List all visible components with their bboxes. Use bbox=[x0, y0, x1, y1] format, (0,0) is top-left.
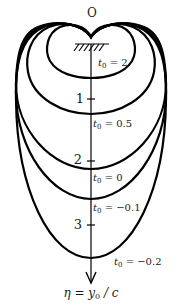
cardioid-curves-diagram: O 1 2 3 t0 = 2 t0 = 0.5 t0 = 0 bbox=[0, 0, 177, 307]
label-t0-0.5: t0 = 0.5 bbox=[93, 118, 132, 131]
tick-2: 2 bbox=[74, 152, 95, 167]
tick-3: 3 bbox=[74, 217, 95, 232]
label-t0-0: t0 = 0 bbox=[93, 172, 123, 185]
ground-hatch-icon bbox=[74, 44, 104, 51]
svg-text:1: 1 bbox=[76, 91, 84, 106]
origin-label: O bbox=[87, 6, 97, 20]
svg-text:3: 3 bbox=[74, 217, 82, 232]
tick-1: 1 bbox=[76, 91, 95, 106]
axis-label: η = y0 / c bbox=[63, 286, 118, 301]
label-t0-neg0.2: t0 = −0.2 bbox=[114, 256, 162, 269]
label-t0-neg0.1: t0 = −0.1 bbox=[93, 202, 141, 215]
svg-text:2: 2 bbox=[74, 152, 82, 167]
label-t0-2: t0 = 2 bbox=[98, 57, 128, 70]
